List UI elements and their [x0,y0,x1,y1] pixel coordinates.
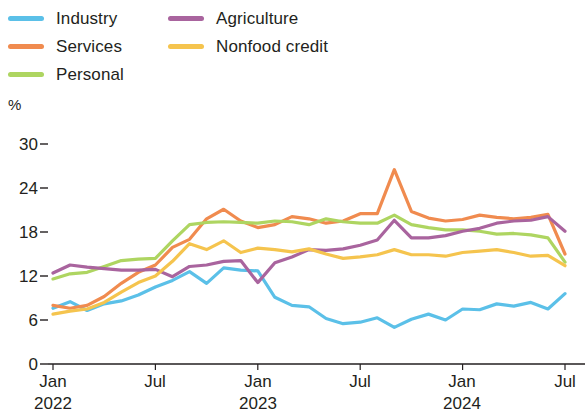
y-tick-label-24: 24 [4,180,38,197]
plot-area: 30 24 18 12 6 0 Jan Jul Jan Jul Jan Jul … [0,0,587,420]
y-axis-ticks [40,144,48,364]
x-tick-label-jul-2022: Jul [133,372,177,392]
chart-svg [0,0,587,420]
y-tick-label-0: 0 [4,356,38,373]
x-tick-label-jan-2023: Jan [236,372,280,392]
y-tick-label-12: 12 [4,268,38,285]
line-chart: Industry Services Personal Agriculture N… [0,0,587,420]
x-axis-ticks [53,364,565,370]
x-tick-year-2024: 2024 [440,394,484,414]
x-tick-label-jul-2023: Jul [338,372,382,392]
x-tick-label-jul-2024: Jul [543,372,587,392]
series-lines [53,170,565,328]
x-tick-label-jan-2024: Jan [440,372,484,392]
y-tick-label-18: 18 [4,224,38,241]
x-tick-year-2023: 2023 [236,394,280,414]
y-tick-label-6: 6 [4,312,38,329]
y-tick-label-30: 30 [4,136,38,153]
x-tick-year-2022: 2022 [31,394,75,414]
x-tick-label-jan-2022: Jan [31,372,75,392]
